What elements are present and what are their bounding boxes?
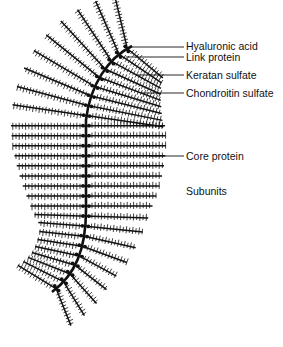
label-chondroitin-sulfate: Chondroitin sulfate [186, 87, 274, 99]
leader-lines [126, 47, 184, 156]
proteoglycan-diagram [0, 0, 283, 347]
label-keratan-sulfate: Keratan sulfate [186, 69, 257, 81]
subunit-group [11, 0, 166, 326]
label-core-protein: Core protein [186, 150, 244, 162]
link-protein-dots [53, 44, 130, 292]
label-subunits: Subunits [186, 185, 227, 197]
label-link-protein: Link protein [186, 51, 240, 63]
